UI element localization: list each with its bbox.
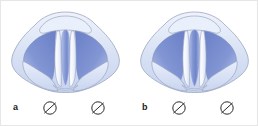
null-symbol-a-left bbox=[41, 99, 59, 117]
figure-panel-a: a bbox=[1, 1, 130, 126]
larynx-illustration-a bbox=[9, 9, 122, 97]
larynx-illustration-b bbox=[138, 9, 251, 97]
null-symbol-a-right bbox=[89, 99, 107, 117]
figure-panel-b: b bbox=[130, 1, 258, 126]
null-symbol-b-right bbox=[218, 99, 236, 117]
panel-letter-a: a bbox=[13, 103, 18, 112]
figure-frame: a bbox=[0, 0, 258, 126]
panel-letter-b: b bbox=[142, 103, 148, 112]
null-symbol-b-left bbox=[170, 99, 188, 117]
